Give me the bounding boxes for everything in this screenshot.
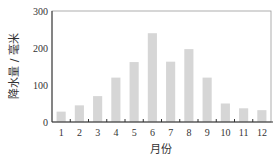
bar-month-5: [130, 62, 139, 122]
bar-month-4: [111, 78, 120, 122]
x-tick-label: 12: [257, 127, 267, 138]
bar-month-2: [75, 105, 84, 122]
x-tick-label: 9: [205, 127, 210, 138]
x-tick-label: 10: [220, 127, 230, 138]
bar-month-12: [257, 110, 266, 122]
bar-month-1: [57, 112, 66, 122]
bar-month-10: [221, 104, 230, 123]
bars: [57, 33, 267, 122]
x-tick-label: 3: [95, 127, 100, 138]
y-tick-label: 300: [33, 6, 48, 17]
x-tick-label: 2: [77, 127, 82, 138]
bar-month-11: [239, 108, 248, 122]
x-tick-label: 7: [168, 127, 173, 138]
bar-month-7: [166, 62, 175, 122]
x-tick-label: 5: [132, 127, 137, 138]
x-tick-label: 4: [113, 127, 118, 138]
y-ticks: 0100200300: [33, 6, 48, 128]
precipitation-bar-chart: 0100200300 123456789101112 月份 降水量 / 毫米: [0, 0, 279, 164]
x-tick-label: 11: [239, 127, 249, 138]
bar-month-8: [184, 49, 193, 122]
x-tick-label: 6: [150, 127, 155, 138]
x-tick-label: 8: [186, 127, 191, 138]
bar-month-3: [93, 96, 102, 122]
y-tick-label: 0: [43, 117, 48, 128]
y-axis-label: 降水量 / 毫米: [7, 33, 21, 99]
y-tick-label: 200: [33, 43, 48, 54]
x-tick-label: 1: [59, 127, 64, 138]
plot-frame: [52, 11, 271, 122]
y-tick-label: 100: [33, 80, 48, 91]
bar-month-6: [148, 33, 157, 122]
x-axis-label: 月份: [150, 143, 172, 156]
bar-month-9: [203, 78, 212, 122]
